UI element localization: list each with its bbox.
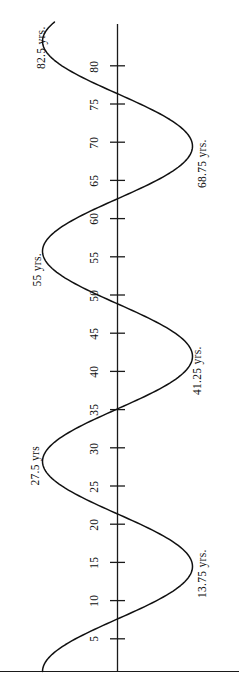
extreme-label-82-5: 82.5 yrs. (36, 26, 48, 69)
tick-label-80: 80 (89, 61, 101, 73)
tick-label-70: 70 (89, 137, 101, 149)
age-wave-figure: 5 10 15 20 25 30 35 40 45 50 55 60 65 70… (0, 0, 239, 691)
tick-label-15: 15 (89, 557, 101, 569)
tick-label-65: 65 (89, 175, 101, 187)
tick-label-50: 50 (89, 290, 101, 302)
tick-label-45: 45 (89, 328, 101, 340)
extreme-label-68-75: 68.75 yrs. (197, 139, 209, 188)
tick-label-40: 40 (89, 366, 101, 378)
tick-label-5: 5 (89, 636, 101, 642)
tick-label-30: 30 (89, 443, 101, 455)
tick-label-75: 75 (89, 99, 101, 111)
tick-label-55: 55 (89, 252, 101, 264)
tick-label-35: 35 (89, 404, 101, 416)
extreme-label-13-75: 13.75 yrs. (197, 549, 209, 598)
extreme-label-27-5: 27.5 yrs (30, 446, 42, 485)
extreme-label-41-25: 41.25 yrs. (192, 346, 204, 395)
tick-label-60: 60 (89, 213, 101, 225)
extreme-label-55: 55 yrs. (32, 253, 44, 286)
tick-label-10: 10 (89, 595, 101, 607)
tick-label-25: 25 (89, 481, 101, 493)
tick-label-20: 20 (89, 519, 101, 531)
